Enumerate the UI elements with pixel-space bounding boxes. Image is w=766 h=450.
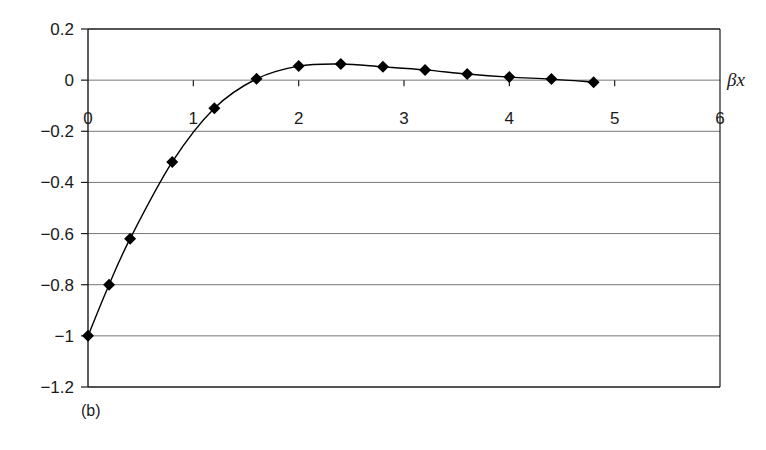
x-tick-label: 2	[294, 109, 303, 128]
y-tick-label: −0.2	[40, 122, 74, 141]
diamond-marker	[545, 73, 557, 85]
y-tick-label: −0.6	[40, 225, 74, 244]
panel-label: (b)	[81, 402, 101, 420]
x-tick-label: 0	[83, 109, 92, 128]
tick-labels: 0.20−0.2−0.4−0.6−0.8−1−1.20123456	[40, 20, 724, 397]
y-tick-label: −0.4	[40, 173, 74, 192]
diamond-marker	[293, 60, 305, 72]
y-tick-label: −1.2	[40, 378, 74, 397]
diamond-marker	[588, 76, 600, 88]
diamond-marker	[103, 279, 115, 291]
diamond-marker	[335, 58, 347, 70]
data-markers	[82, 58, 600, 342]
data-curve	[88, 64, 594, 336]
x-axis-title: βx	[726, 69, 745, 90]
x-tick-label: 1	[189, 109, 198, 128]
y-tick-label: 0	[65, 71, 74, 90]
diamond-marker	[166, 156, 178, 168]
y-tick-label: −1	[55, 327, 74, 346]
y-tick-label: 0.2	[50, 20, 74, 39]
diamond-marker	[461, 68, 473, 80]
axes	[81, 29, 720, 387]
x-tick-label: 4	[505, 109, 514, 128]
diamond-marker	[503, 71, 515, 83]
x-tick-label: 5	[610, 109, 619, 128]
diamond-marker	[419, 64, 431, 76]
diamond-marker	[82, 330, 94, 342]
diamond-marker	[377, 61, 389, 73]
y-tick-label: −0.8	[40, 276, 74, 295]
x-tick-label: 6	[715, 109, 724, 128]
chart-plot-area: 0.20−0.2−0.4−0.6−0.8−1−1.20123456 βx	[0, 0, 766, 450]
diamond-marker	[251, 73, 263, 85]
x-tick-label: 3	[399, 109, 408, 128]
diamond-marker	[124, 233, 136, 245]
